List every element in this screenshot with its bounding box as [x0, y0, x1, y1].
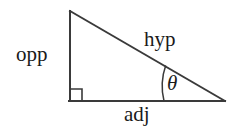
triangle-drawing [0, 0, 233, 132]
adjacent-side-label: adj [124, 104, 150, 125]
trigonometry-diagram: opp hyp adj θ [0, 0, 233, 132]
hypotenuse-label: hyp [144, 29, 176, 50]
right-angle-square-icon [70, 89, 82, 101]
theta-angle-label: θ [167, 73, 177, 94]
opposite-side-label: opp [16, 44, 48, 65]
theta-arc-icon [162, 66, 166, 101]
hypotenuse-line [70, 11, 225, 101]
